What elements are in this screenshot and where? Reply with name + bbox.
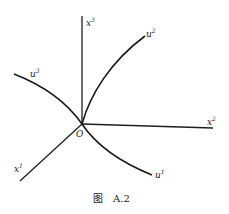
u2-curve — [82, 36, 145, 124]
figure-caption-prefix: 图 — [93, 193, 103, 204]
x2-axis — [82, 124, 213, 128]
u3-label: u3 — [30, 67, 40, 79]
x3-label: x3 — [86, 16, 95, 28]
origin-label: O — [76, 129, 84, 139]
u1-curve — [82, 124, 152, 175]
coordinate-diagram: x3 x2 x1 u2 u3 u1 O 图 A.2 — [0, 0, 229, 214]
x1-axis — [20, 124, 82, 181]
x1-label: x1 — [14, 162, 23, 174]
u1-label: u1 — [155, 168, 165, 180]
figure-caption-number: A.2 — [112, 193, 130, 204]
u2-label: u2 — [146, 27, 156, 39]
u3-curve-upper — [14, 74, 82, 124]
x2-label: x2 — [207, 115, 216, 127]
